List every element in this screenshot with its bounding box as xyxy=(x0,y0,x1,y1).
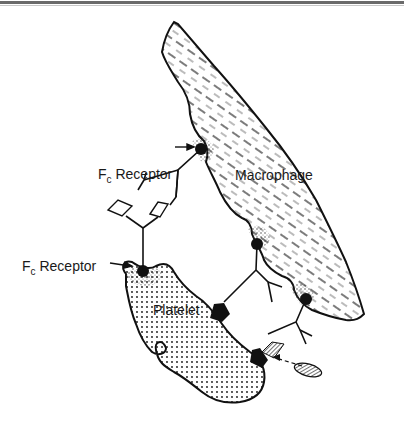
fc-receptor-label-bottom: Fc Receptor xyxy=(22,259,96,277)
diagram-figure xyxy=(0,0,404,427)
macrophage-label: Macrophage xyxy=(235,168,313,182)
antigens-open xyxy=(108,200,168,217)
free-antigen xyxy=(272,354,323,379)
platelet-label: Platelet xyxy=(153,303,200,317)
fc-receptor-label-top: Fc Receptor xyxy=(98,167,172,185)
